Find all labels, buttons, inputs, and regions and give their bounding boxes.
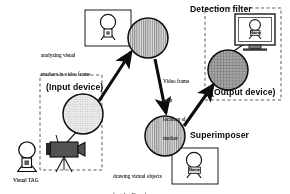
icon-video-camera (47, 135, 86, 172)
node-detection-filter (128, 18, 168, 58)
group-label-output-device: (Output device) (211, 87, 276, 97)
superimposed-frame-name-label: Name (189, 167, 200, 172)
annotation-analyzing: analyzing visual markers in video frame (41, 39, 101, 90)
annotation-analyzing-line-1: analyzing visual (41, 52, 101, 58)
annotation-video-frame: Video frame with location of marker (163, 65, 207, 155)
annotation-video-frame-line-4: marker (163, 135, 207, 141)
annotation-drawing: drawing virtual objects (e.g. her Name) … (113, 160, 175, 194)
node-input-device (63, 94, 103, 134)
diagram-canvas: Detection filter Superimposer (Input dev… (0, 0, 290, 194)
annotation-drawing-line-2: (e.g. her Name) (113, 192, 175, 194)
annotation-drawing-line-1: drawing virtual objects (113, 173, 175, 179)
node-label-detection-filter: Detection filter (190, 4, 252, 14)
caption-visual-tag: Visual TAG (13, 177, 39, 183)
node-output-device (208, 50, 248, 90)
monitor-screen-name-label: Name (250, 30, 261, 35)
arrow-input-to-detection (99, 52, 131, 101)
annotation-video-frame-line-1: Video frame (163, 78, 207, 84)
annotation-video-frame-line-3: location of (163, 116, 207, 122)
icon-person-with-visual-tag (17, 142, 37, 172)
annotation-analyzing-line-2: markers in video frame (41, 71, 101, 77)
annotation-video-frame-line-2: with (163, 97, 207, 103)
